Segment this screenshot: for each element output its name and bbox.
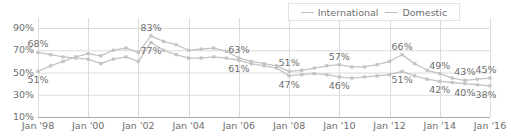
data-point-marker — [426, 78, 429, 81]
data-point-value-label: 51% — [391, 74, 413, 85]
data-point-marker — [175, 53, 178, 56]
data-point-value-label: 47% — [278, 79, 300, 90]
data-point-value-label: 61% — [228, 63, 250, 74]
data-point-marker — [325, 64, 328, 67]
data-point-marker — [112, 58, 115, 61]
data-point-marker — [300, 69, 303, 72]
data-point-marker — [200, 56, 203, 59]
data-point-value-label: 38% — [475, 89, 497, 100]
legend-line-swatch-icon — [301, 12, 314, 13]
data-point-marker — [262, 64, 265, 67]
data-point-marker — [62, 60, 65, 63]
data-point-marker — [438, 80, 441, 83]
data-point-value-label: 66% — [391, 41, 413, 52]
data-point-marker — [124, 46, 127, 49]
data-point-marker — [49, 64, 52, 67]
data-point-marker — [237, 59, 240, 62]
series-line — [38, 36, 490, 81]
data-point-marker — [401, 70, 404, 73]
data-point-marker — [413, 74, 416, 77]
data-point-marker — [87, 58, 90, 61]
data-point-marker — [463, 79, 466, 82]
x-axis-tick-label: Jan '12 — [364, 120, 416, 131]
data-point-marker — [149, 41, 152, 44]
data-point-marker — [300, 73, 303, 76]
data-point-marker — [62, 55, 65, 58]
legend-item-domestic[interactable]: Domestic — [385, 7, 447, 18]
data-point-value-label: 46% — [328, 80, 350, 91]
y-axis-tick-label: 90% — [0, 22, 34, 33]
data-point-marker — [99, 62, 102, 65]
data-point-marker — [476, 78, 479, 81]
data-point-marker — [375, 74, 378, 77]
data-point-marker — [313, 66, 316, 69]
data-point-value-label: 51% — [278, 57, 300, 68]
data-point-marker — [463, 82, 466, 85]
data-point-marker — [149, 34, 152, 37]
data-point-marker — [212, 46, 215, 49]
data-point-marker — [99, 54, 102, 57]
data-point-marker — [200, 48, 203, 51]
x-axis-tick-label: Jan '00 — [62, 120, 114, 131]
data-point-value-label: 68% — [27, 38, 49, 49]
legend-label: International — [318, 7, 379, 18]
data-point-value-label: 51% — [27, 74, 49, 85]
data-point-marker — [187, 56, 190, 59]
x-axis-tick-label: Jan '04 — [163, 120, 215, 131]
data-point-marker — [288, 74, 291, 77]
series-lines — [36, 34, 491, 87]
data-point-marker — [225, 56, 228, 59]
data-point-marker — [338, 75, 341, 78]
data-point-value-label: 40% — [454, 87, 476, 98]
data-point-marker — [212, 55, 215, 58]
data-point-value-label: 49% — [429, 60, 451, 71]
y-axis-tick-label: 30% — [0, 89, 34, 100]
chart-legend: International Domestic — [288, 3, 460, 21]
data-point-marker — [350, 65, 353, 68]
data-point-marker — [87, 52, 90, 55]
data-point-marker — [288, 70, 291, 73]
data-point-marker — [36, 70, 39, 73]
data-point-marker — [438, 72, 441, 75]
data-point-marker — [451, 81, 454, 84]
data-point-marker — [124, 55, 127, 58]
data-point-marker — [175, 43, 178, 46]
data-point-marker — [401, 53, 404, 56]
data-point-marker — [413, 62, 416, 65]
data-point-marker — [250, 62, 253, 65]
data-point-marker — [313, 72, 316, 75]
data-point-value-label: 43% — [454, 66, 476, 77]
x-axis-tick-label: Jan '10 — [313, 120, 365, 131]
x-axis-tick-label: Jan '02 — [112, 120, 164, 131]
data-point-value-label: 83% — [140, 22, 162, 33]
x-axis-tick-label: Jan '08 — [263, 120, 315, 131]
data-point-value-label: 77% — [140, 45, 162, 56]
x-axis-tick-label: Jan '14 — [414, 120, 466, 131]
x-axis-tick-label: Jan '06 — [213, 120, 265, 131]
data-point-value-label: 63% — [228, 44, 250, 55]
x-axis-tick-label: Jan '16 — [464, 120, 511, 131]
data-point-marker — [350, 76, 353, 79]
data-point-marker — [74, 56, 77, 59]
data-point-marker — [363, 75, 366, 78]
x-axis-tick-label: Jan '98 — [12, 120, 64, 131]
legend-line-swatch-icon — [385, 12, 398, 13]
data-point-value-label: 42% — [429, 84, 451, 95]
data-point-marker — [36, 51, 39, 54]
data-point-marker — [49, 53, 52, 56]
data-point-marker — [488, 84, 491, 87]
data-point-value-label: 57% — [328, 51, 350, 62]
data-point-marker — [112, 49, 115, 52]
data-point-marker — [363, 65, 366, 68]
data-point-marker — [476, 83, 479, 86]
data-point-marker — [187, 49, 190, 52]
legend-item-international[interactable]: International — [301, 7, 379, 18]
data-point-marker — [162, 49, 165, 52]
data-point-marker — [137, 60, 140, 63]
data-point-marker — [375, 63, 378, 66]
data-point-value-label: 45% — [475, 64, 497, 75]
data-point-marker — [388, 60, 391, 63]
data-point-marker — [325, 73, 328, 76]
legend-label: Domestic — [402, 7, 447, 18]
